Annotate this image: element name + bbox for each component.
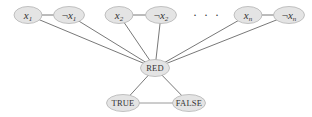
node-red: RED	[141, 60, 170, 77]
node-true: TRUE	[107, 95, 140, 112]
ellipsis-dots: · · ·	[193, 8, 221, 22]
variable-gadget-diagram: x1¬x1x2¬x2xn¬xnREDTRUEFALSE · · ·	[0, 0, 312, 117]
node-nxn: ¬xn	[274, 7, 305, 24]
node-x1: x1	[14, 7, 42, 24]
nodes: x1¬x1x2¬x2xn¬xnREDTRUEFALSE	[14, 7, 305, 112]
node-false: FALSE	[173, 95, 206, 112]
node-nx2: ¬x2	[146, 7, 177, 24]
edge-nx1-red	[69, 15, 155, 68]
edge-xn-red	[155, 15, 248, 68]
node-label: TRUE	[112, 98, 135, 108]
node-x2: x2	[105, 7, 133, 24]
edge-x1-red	[28, 15, 155, 68]
node-xn: xn	[234, 7, 262, 24]
edge-nxn-red	[155, 15, 289, 68]
node-nx1: ¬x1	[54, 7, 85, 24]
node-label: FALSE	[176, 98, 202, 108]
node-label: RED	[146, 63, 164, 73]
edges	[28, 15, 289, 103]
